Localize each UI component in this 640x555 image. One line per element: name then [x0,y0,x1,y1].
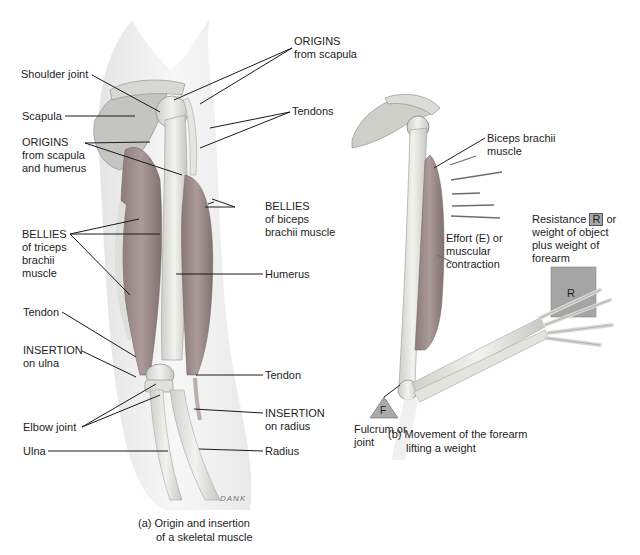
label-biceps-brachii-muscle: Biceps brachii muscle [487,132,555,158]
label-bellies-of-biceps: BELLIES of biceps brachii muscle [265,200,335,239]
label-insertion-on-ulna: INSERTION on ulna [23,344,83,370]
label-line: and humerus [22,162,86,175]
caption-b-line2: lifting a weight [388,441,527,455]
label-line: Biceps brachii [487,132,555,145]
caption-a-marker: (a) [138,517,151,529]
label-line: or [607,213,617,225]
caption-a: (a) Origin and insertion of a skeletal m… [138,516,253,544]
label-line: BELLIES [22,228,67,241]
label-line: brachii [22,254,67,267]
label-line: of biceps [265,213,335,226]
label-line: from scapula [294,48,357,61]
label-insertion-on-radius: INSERTION on radius [265,407,325,433]
label-ulna: Ulna [23,445,46,458]
label-line: Effort (E) or [446,232,503,245]
label-line: forearm [532,252,616,265]
anatomy-figure: ORIGINS from scapula Shoulder joint Tend… [0,0,640,555]
label-line: muscle [22,267,67,280]
label-tendon-upper: Tendon [23,306,59,319]
label-line: plus weight of [532,239,616,252]
label-line: from scapula [22,149,86,162]
label-elbow-joint: Elbow joint [23,421,76,434]
label-line: BELLIES [265,200,335,213]
label-line: Resistance [532,213,586,225]
label-line: contraction [446,258,503,271]
arm-illustration-a [94,18,252,510]
label-tendons: Tendons [292,105,334,118]
weight-box-symbol: R [567,287,575,300]
label-scapula: Scapula [22,110,62,123]
arm-illustration-b [352,94,612,460]
label-resistance: Resistance R or weight of object plus we… [532,213,616,265]
label-line: muscle [487,145,555,158]
caption-b-line1: Movement of the forearm [405,428,528,440]
caption-a-line2: of a skeletal muscle [138,530,253,544]
label-line: on radius [265,420,325,433]
label-line: of triceps [22,241,67,254]
label-origins-from-scapula-and-humerus: ORIGINS from scapula and humerus [22,136,86,175]
label-effort: Effort (E) or muscular contraction [446,232,503,271]
label-shoulder-joint: Shoulder joint [21,68,88,81]
resistance-symbol: R [589,213,603,226]
label-radius: Radius [265,445,299,458]
label-humerus: Humerus [265,268,310,281]
label-line: weight of object [532,226,616,239]
label-bellies-of-triceps: BELLIES of triceps brachii muscle [22,228,67,280]
caption-a-line1: Origin and insertion [155,517,250,529]
label-tendon-lower: Tendon [265,369,301,382]
label-line: on ulna [23,357,83,370]
artist-signature: DANK [220,494,246,503]
label-line: ORIGINS [22,136,86,149]
label-line: brachii muscle [265,226,335,239]
fulcrum-symbol: F [380,404,386,417]
label-line: muscular [446,245,503,258]
label-origins-from-scapula: ORIGINS from scapula [294,35,357,61]
label-line: ORIGINS [294,35,357,48]
label-line: INSERTION [23,344,83,357]
illustration [0,0,640,555]
label-line: INSERTION [265,407,325,420]
caption-b: (b) Movement of the forearm lifting a we… [388,427,527,455]
caption-b-marker: (b) [388,428,401,440]
